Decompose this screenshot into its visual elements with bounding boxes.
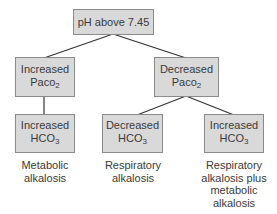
connector-decreased-paco2-to-increased-hco3 (186, 96, 234, 115)
node-label: Increased (21, 63, 69, 76)
caption-respiratory-plus-metabolic-alkalosis: Respiratory alkalosis plus metabolic alk… (191, 159, 277, 209)
node-formula: HCO3 (118, 132, 147, 148)
node-increased-hco3-right: Increased HCO3 (204, 114, 264, 153)
connector-root-to-decreased-paco2 (113, 34, 186, 58)
node-increased-hco3-left: Increased HCO3 (15, 114, 75, 153)
node-formula: Paco2 (172, 76, 202, 92)
node-ph-above-745: pH above 7.45 (73, 9, 154, 35)
caption-respiratory-alkalosis: Respiratory alkalosis (92, 159, 174, 184)
node-decreased-paco2: Decreased Paco2 (154, 57, 219, 97)
node-label: Decreased (160, 63, 213, 76)
node-label: Increased (210, 119, 258, 132)
node-label: Decreased (106, 119, 159, 132)
node-decreased-hco3: Decreased HCO3 (102, 114, 163, 153)
caption-metabolic-alkalosis: Metabolic alkalosis (5, 159, 85, 184)
connector-decreased-paco2-to-decreased-hco3 (137, 96, 186, 115)
node-increased-paco2: Increased Paco2 (15, 57, 75, 97)
node-formula: Paco2 (30, 76, 60, 92)
node-formula: HCO3 (220, 132, 249, 148)
node-label: pH above 7.45 (78, 16, 150, 29)
node-label: Increased (21, 119, 69, 132)
node-formula: HCO3 (31, 132, 60, 148)
connector-root-to-increased-paco2 (44, 34, 113, 58)
